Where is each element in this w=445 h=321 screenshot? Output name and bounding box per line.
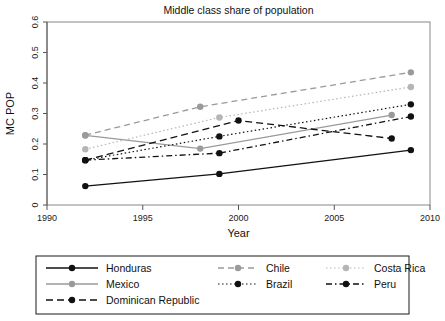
x-tick-label: 2000: [228, 213, 248, 223]
y-tick-label: 0.2: [30, 138, 40, 151]
legend-label: Honduras: [106, 262, 152, 274]
legend-label: Peru: [374, 278, 396, 290]
series-honduras: [82, 147, 414, 189]
legend-label: Chile: [266, 262, 290, 274]
x-tick-label: 2010: [420, 213, 440, 223]
legend-marker: [235, 265, 241, 271]
data-point: [216, 114, 222, 120]
data-point: [82, 132, 88, 138]
data-point: [389, 112, 395, 118]
legend-marker: [343, 281, 349, 287]
legend-marker: [343, 265, 349, 271]
data-point: [216, 133, 222, 139]
y-tick-label: 0.3: [30, 107, 40, 120]
y-tick-label: 0.1: [30, 168, 40, 181]
series-costa-rica: [82, 84, 414, 153]
y-axis-title: MC POP: [4, 92, 16, 135]
y-tick-label: 0.4: [30, 77, 40, 90]
data-point: [408, 84, 414, 90]
legend-label: Brazil: [266, 278, 292, 290]
data-point: [82, 157, 88, 163]
data-point: [216, 150, 222, 156]
x-axis-title: Year: [227, 227, 250, 239]
x-tick-label: 2005: [324, 213, 344, 223]
x-tick-label: 1990: [37, 213, 57, 223]
legend-marker: [235, 281, 241, 287]
series-line: [85, 104, 411, 160]
series-line: [85, 150, 411, 186]
chart-title: Middle class share of population: [163, 4, 313, 16]
series-chile: [82, 69, 414, 138]
data-point: [82, 146, 88, 152]
data-point: [408, 101, 414, 107]
legend-label: Costa Rica: [374, 262, 426, 274]
legend-label: Mexico: [106, 278, 139, 290]
data-point: [408, 147, 414, 153]
y-tick-label: 0.5: [30, 46, 40, 59]
legend-marker: [69, 265, 75, 271]
legend-marker: [69, 281, 75, 287]
chart-container: Middle class share of population00.10.20…: [0, 0, 445, 321]
series-brazil: [82, 101, 414, 163]
plot-frame: [47, 22, 430, 205]
y-tick-label: 0: [30, 202, 40, 207]
data-point: [389, 135, 395, 141]
data-point: [82, 183, 88, 189]
data-point: [197, 145, 203, 151]
x-tick-label: 1995: [133, 213, 153, 223]
legend-marker: [69, 297, 75, 303]
data-point: [408, 69, 414, 75]
legend-box: [36, 256, 409, 314]
line-chart: Middle class share of population00.10.20…: [0, 0, 445, 321]
legend-label: Dominican Republic: [106, 294, 199, 306]
data-point: [197, 104, 203, 110]
y-tick-label: 0.6: [30, 16, 40, 29]
data-point: [235, 117, 241, 123]
data-point: [408, 113, 414, 119]
data-point: [216, 171, 222, 177]
